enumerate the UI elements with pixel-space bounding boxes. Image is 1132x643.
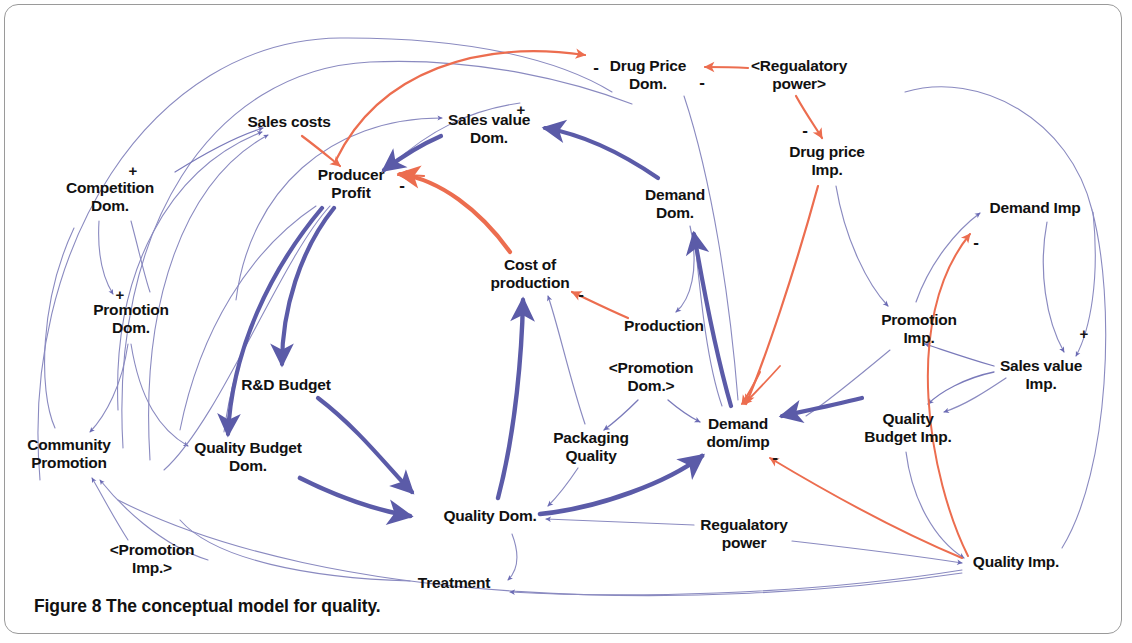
node-promotion-imp-ref: <Promotion Imp.>	[110, 541, 195, 576]
node-production: Production	[624, 317, 704, 335]
link-producer-profit-to-rd-budget	[282, 208, 334, 364]
node-drug-price-imp: Drug price Imp.	[789, 143, 865, 178]
node-promotion-dom-ref: <Promotion Dom.>	[609, 359, 694, 394]
node-competition-dom: Competition Dom.	[66, 179, 154, 214]
polarity-pol-drug-price-dom-right: -	[699, 75, 705, 90]
link-sales-value-imp-to-promotion-imp	[925, 344, 994, 366]
link-regulatory-to-quality-imp	[792, 541, 962, 563]
link-arc-to-sales-costs-2	[118, 132, 262, 410]
link-promotion-dom-ref-to-demand-dom-imp	[668, 400, 700, 422]
link-drug-price-imp-to-promotion-imp	[836, 186, 888, 306]
link-cost-of-production-to-producer-profit	[400, 174, 510, 252]
polarity-pol-drug-price-dom-left: -	[593, 60, 599, 75]
link-quality-imp-to-demand-dom-imp	[770, 458, 962, 558]
link-quality-dom-to-demand-dom-imp	[540, 456, 702, 514]
node-demand-imp: Demand Imp	[989, 199, 1080, 217]
link-quality-budget-imp-to-quality-imp	[906, 452, 964, 558]
node-demand-dom-imp: Demand dom/imp	[706, 415, 769, 450]
caption-divider	[5, 586, 1122, 587]
link-quality-imp-to-demand-imp	[928, 234, 970, 556]
node-regulatory-power: Regualatory power	[700, 516, 787, 551]
link-drug-price-dom-down-arc	[684, 96, 738, 400]
node-quality-imp: Quality Imp.	[973, 553, 1059, 571]
link-packaging-to-quality-dom	[548, 468, 578, 506]
node-community-promotion: Community Promotion	[27, 436, 110, 471]
link-competition-to-promotion-dom	[99, 221, 113, 294]
link-demand-dom-to-sales-value-dom	[545, 128, 658, 178]
node-treatment: Treatment	[418, 574, 490, 592]
link-quality-dom-to-treatment	[508, 534, 517, 580]
figure-caption: Figure 8 The conceptual model for qualit…	[34, 596, 381, 617]
polarity-pol-demand-dom-imp: -	[772, 450, 778, 465]
link-to-sales-value-dom-thin	[236, 118, 442, 300]
link-quality-dom-to-cost-of-production	[498, 300, 523, 498]
link-demand-dom-imp-to-demand-imp	[782, 398, 862, 416]
polarity-pol-cost-of-production: -	[578, 287, 584, 302]
polarity-pol-demand-imp: -	[973, 235, 979, 250]
node-packaging-quality: Packaging Quality	[553, 429, 629, 464]
link-promotion-dom-ref-to-packaging	[604, 400, 638, 430]
node-cost-of-production: Cost of production	[491, 256, 570, 291]
polarity-pol-sales-value-imp: +	[1080, 326, 1089, 341]
link-treatment-left-arc	[180, 520, 410, 581]
link-packaging-to-cost	[548, 296, 585, 424]
link-sales-value-dom-to-producer-profit	[384, 136, 441, 170]
link-demand-imp-to-sales-value-imp	[1043, 222, 1064, 352]
polarity-pol-producer-profit: -	[399, 178, 405, 193]
node-quality-budget-imp: Quality Budget Imp.	[864, 410, 951, 445]
figure-caption-text: The conceptual model for quality.	[106, 596, 380, 616]
link-right-outer-top-arc	[905, 87, 1092, 210]
link-arc-to-sales-costs	[149, 135, 268, 460]
link-producer-profit-to-quality-budget-dom	[228, 208, 322, 434]
node-demand-dom: Demand Dom.	[645, 186, 705, 221]
node-producer-profit: Producer Profit	[318, 166, 384, 201]
node-quality-budget-dom: Quality Budget Dom.	[194, 439, 301, 474]
polarity-pol-sales-value-dom: +	[517, 102, 526, 117]
polarity-pol-promotion-dom: +	[116, 287, 125, 302]
figure-container: Competition Dom.Sales costsProducer Prof…	[0, 0, 1132, 643]
link-demand-dom-to-production	[676, 226, 694, 312]
link-quality-budget-dom-to-quality-dom	[300, 478, 410, 516]
link-demand-dom-imp-to-quality-budget-imp	[944, 378, 1006, 412]
polarity-pol-competition-dom: +	[129, 163, 138, 178]
node-rd-budget: R&D Budget	[241, 376, 330, 394]
link-orange-converge-demand-dom-imp	[742, 372, 760, 404]
link-rd-budget-to-quality-dom	[318, 398, 412, 492]
node-drug-price-dom: Drug Price Dom.	[610, 57, 686, 92]
link-regulatory-ref-to-drug-price-imp	[796, 96, 822, 138]
link-regulatory-to-quality-dom	[546, 519, 694, 525]
node-quality-dom: Quality Dom.	[443, 507, 536, 525]
node-sales-costs: Sales costs	[247, 113, 330, 131]
polarity-pol-drug-price-imp: -	[802, 123, 808, 138]
link-promotion-imp-to-demand-imp	[916, 213, 980, 302]
node-promotion-dom: Promotion Dom.	[93, 301, 169, 336]
link-regulatory-ref-to-drug-price-dom	[705, 67, 748, 68]
link-promotion-dom-to-quality-budget-dom	[131, 344, 188, 446]
link-promotion-imp-ref-to-community-a	[92, 478, 128, 540]
link-competition-branch	[131, 221, 150, 292]
link-orange-converge-demand-dom-imp-2	[744, 366, 780, 404]
link-sales-value-imp-to-quality-budget-imp	[928, 372, 994, 404]
node-sales-value-imp: Sales value Imp.	[1000, 357, 1082, 392]
link-drug-price-imp-to-demand-dom-imp	[746, 186, 818, 404]
node-promotion-imp: Promotion Imp.	[881, 311, 957, 346]
figure-caption-label: Figure 8	[34, 596, 101, 616]
node-regulatory-power-ref: <Regualatory power>	[751, 57, 847, 92]
link-sales-costs-to-producer-profit	[302, 136, 340, 166]
